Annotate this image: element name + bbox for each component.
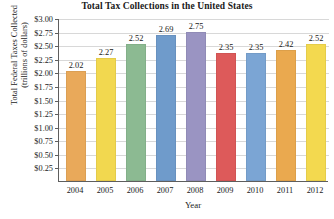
bar[interactable]	[246, 53, 266, 181]
x-axis-title: Year	[58, 200, 328, 210]
bar-chart: Total Tax Collections in the United Stat…	[0, 0, 334, 219]
bar[interactable]	[276, 50, 296, 181]
bar-value-label: 2.42	[271, 40, 301, 49]
x-axis-tick-label: 2004	[60, 186, 90, 195]
y-axis-tick-label: $2.00	[34, 69, 53, 78]
bar-value-label: 2.69	[151, 25, 181, 34]
bar-value-label: 2.52	[121, 34, 151, 43]
y-axis-tick-label: $2.25	[34, 55, 53, 64]
plot-area: $0.25$0.50$0.75$1.00$1.25$1.50$1.75$2.00…	[58, 19, 328, 182]
x-axis-tick-label: 2011	[270, 186, 300, 195]
bar-slot: 2.02	[61, 18, 91, 181]
y-axis-title-line2: (trillions of dollars)	[20, 0, 30, 140]
x-axis-tick-label: 2007	[150, 186, 180, 195]
bar[interactable]	[186, 32, 206, 181]
x-axis-tick-label: 2008	[180, 186, 210, 195]
y-axis-tick-label: $1.25	[34, 110, 53, 119]
bars-layer: 2.022.272.522.692.752.352.352.422.52	[59, 18, 329, 181]
y-axis-tick-label: $2.50	[34, 42, 53, 51]
bar[interactable]	[216, 53, 236, 181]
y-axis-tick-label: $1.50	[34, 96, 53, 105]
bar-slot: 2.75	[181, 18, 211, 181]
x-axis-tick-label: 2012	[300, 186, 330, 195]
bar[interactable]	[126, 44, 146, 181]
y-axis-tick-label: $1.75	[34, 82, 53, 91]
bar-slot: 2.69	[151, 18, 181, 181]
bar-slot: 2.27	[91, 18, 121, 181]
bar-value-label: 2.75	[181, 22, 211, 31]
y-axis-tick-label: $0.25	[34, 164, 53, 173]
bar-slot: 2.35	[211, 18, 241, 181]
bar-slot: 2.35	[241, 18, 271, 181]
bar[interactable]	[156, 35, 176, 181]
bar[interactable]	[66, 71, 86, 181]
x-axis-tick-label: 2005	[90, 186, 120, 195]
bar-value-label: 2.02	[61, 61, 91, 70]
x-axis-tick-label: 2010	[240, 186, 270, 195]
y-axis-tick-label: $0.50	[34, 150, 53, 159]
y-axis-tick-label: $2.75	[34, 28, 53, 37]
x-axis-tick-label: 2009	[210, 186, 240, 195]
bar-slot: 2.52	[121, 18, 151, 181]
bar[interactable]	[96, 58, 116, 181]
y-axis-title-line1: Total Federal Taxes Collected	[10, 5, 19, 105]
bar-slot: 2.42	[271, 18, 301, 181]
bar-value-label: 2.52	[301, 34, 331, 43]
bar-value-label: 2.27	[91, 48, 121, 57]
bar-slot: 2.52	[301, 18, 331, 181]
bar-value-label: 2.35	[211, 43, 241, 52]
y-axis-tick-label: $0.75	[34, 137, 53, 146]
y-axis-title: Total Federal Taxes Collected (trillions…	[10, 0, 30, 140]
x-axis-tick-label: 2006	[120, 186, 150, 195]
bar[interactable]	[306, 44, 326, 181]
chart-title: Total Tax Collections in the United Stat…	[0, 1, 334, 11]
y-axis-tick-label: $3.00	[34, 15, 53, 24]
bar-value-label: 2.35	[241, 43, 271, 52]
y-axis-tick-label: $1.00	[34, 123, 53, 132]
